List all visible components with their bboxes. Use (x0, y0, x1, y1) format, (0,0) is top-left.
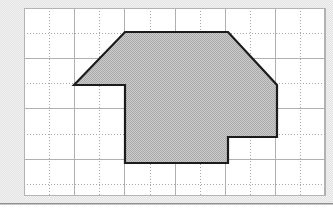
grid-line-vertical (325, 8, 326, 196)
grid-panel (24, 8, 325, 196)
footer-spacer (0, 205, 333, 209)
shape-layer (24, 8, 325, 196)
shaded-polygon[interactable] (74, 32, 277, 163)
